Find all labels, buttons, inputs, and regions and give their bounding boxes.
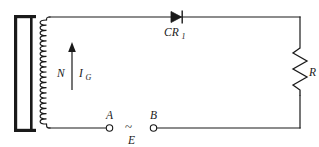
terminal-a-circle-icon: [106, 125, 112, 131]
gate-current-subscript: G: [86, 73, 92, 82]
magnetic-core: [14, 15, 36, 132]
core-left-bar: [14, 15, 17, 132]
winding-label: N: [56, 67, 66, 79]
ac-source-label: E: [127, 134, 135, 146]
gate-current-label: I: [78, 67, 84, 79]
core-right-bar: [30, 18, 33, 129]
terminal-a: A: [105, 109, 114, 131]
resistor-label: R: [308, 66, 316, 78]
diode-subscript: 1: [182, 32, 186, 41]
schematic-canvas: N I G CR 1 R A: [0, 0, 319, 147]
terminal-b-label: B: [150, 109, 157, 121]
terminal-b: B: [150, 109, 157, 131]
core-top-cap: [14, 15, 36, 18]
ac-source: ~ E: [125, 119, 135, 146]
terminal-b-circle-icon: [150, 125, 156, 131]
resistor-zigzag-icon: [293, 48, 307, 96]
core-bottom-cap: [14, 129, 36, 132]
circuit-diagram: N I G CR 1 R A: [0, 0, 319, 147]
coil-loops: [40, 20, 46, 124]
diode-cr1: CR 1: [164, 11, 186, 41]
winding-coil: N: [40, 17, 66, 128]
terminal-a-label: A: [105, 109, 114, 121]
gate-current-arrow: I G: [68, 42, 91, 90]
diode-label: CR: [164, 26, 179, 38]
ac-source-symbol-icon: ~: [125, 119, 132, 134]
diode-triangle-icon: [171, 12, 182, 23]
load-resistor: R: [293, 48, 316, 96]
arrow-head-icon: [68, 42, 76, 52]
